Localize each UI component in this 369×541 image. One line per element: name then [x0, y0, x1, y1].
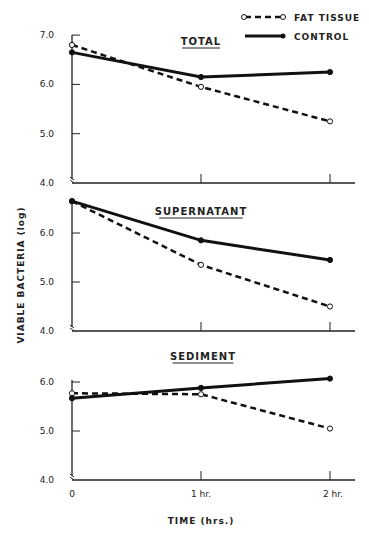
y-tick-label: 6.0 — [40, 228, 55, 238]
panel-total: TOTAL7.06.05.04.0 — [40, 30, 355, 188]
control-point — [69, 396, 74, 401]
control-point — [327, 376, 332, 381]
panel-title: SEDIMENT — [170, 351, 236, 362]
control-point — [327, 257, 332, 262]
series-fat-tissue — [72, 393, 330, 428]
control-point — [69, 50, 74, 55]
legend-fat-tissue: FAT TISSUE — [242, 13, 361, 23]
legend-control-label: CONTROL — [294, 32, 349, 42]
fat-tissue-point — [198, 262, 203, 267]
panel-supernatant: SUPERNATANT6.05.04.0 — [40, 199, 355, 336]
fat-tissue-point — [327, 426, 332, 431]
y-tick-label: 4.0 — [40, 326, 55, 336]
y-tick-label: 5.0 — [40, 129, 55, 139]
panel-title: TOTAL — [181, 36, 221, 47]
panel-title: SUPERNATANT — [155, 206, 248, 217]
x-tick-1: 1 hr. — [191, 489, 211, 499]
panel-sediment: SEDIMENT6.05.04.0 — [40, 351, 355, 485]
y-axis-label: VIABLE BACTERIA (log) — [16, 206, 26, 343]
fat-tissue-point — [327, 304, 332, 309]
y-tick-label: 7.0 — [40, 30, 55, 40]
fat-tissue-point — [198, 84, 203, 89]
fat-tissue-point — [69, 42, 74, 47]
x-tick-2: 2 hr. — [323, 489, 343, 499]
control-point — [69, 199, 74, 204]
y-tick-label: 5.0 — [40, 277, 55, 287]
y-tick-label: 4.0 — [40, 475, 55, 485]
x-tick-0: 0 — [69, 489, 75, 499]
x-axis-label: TIME (hrs.) — [168, 516, 235, 526]
y-tick-label: 6.0 — [40, 79, 55, 89]
control-point — [198, 385, 203, 390]
chart: FAT TISSUE CONTROL VIABLE BACTERIA (log)… — [0, 0, 369, 541]
y-tick-label: 5.0 — [40, 426, 55, 436]
series-fat-tissue — [72, 45, 330, 121]
control-point — [198, 74, 203, 79]
control-point — [327, 69, 332, 74]
legend-fat-label: FAT TISSUE — [294, 13, 360, 23]
y-tick-label: 4.0 — [40, 178, 55, 188]
fat-tissue-point — [327, 119, 332, 124]
fat-tissue-point — [198, 392, 203, 397]
legend-control: CONTROL — [245, 32, 349, 42]
legend: FAT TISSUE CONTROL — [242, 13, 361, 42]
y-tick-label: 6.0 — [40, 377, 55, 387]
series-control — [72, 52, 330, 77]
control-point — [198, 238, 203, 243]
